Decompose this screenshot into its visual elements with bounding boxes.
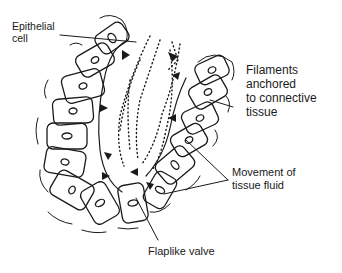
label-flaplike-valve: Flaplike valve	[148, 245, 215, 258]
label-filaments-line1: Filaments	[246, 63, 317, 77]
label-epithelial-line1: Epithelial	[12, 20, 55, 32]
epithelial-cells-left-arc	[43, 20, 149, 227]
label-filaments-line4: tissue	[246, 105, 317, 119]
label-movement-of-tissue-fluid: Movement of tissue fluid	[232, 166, 296, 192]
label-movement-line1: Movement of	[232, 166, 296, 179]
label-epithelial-cell: Epithelial cell	[12, 20, 55, 44]
label-epithelial-line2: cell	[12, 32, 55, 44]
label-filaments-line2: anchored	[246, 77, 317, 91]
flow-arrows	[100, 50, 180, 190]
epithelial-cells-right-arc	[141, 53, 231, 210]
label-filaments: Filaments anchored to connective tissue	[246, 63, 317, 119]
label-movement-line2: tissue fluid	[232, 179, 296, 192]
label-flaplike-valve-text: Flaplike valve	[148, 245, 215, 258]
label-filaments-line3: to connective	[246, 91, 317, 105]
